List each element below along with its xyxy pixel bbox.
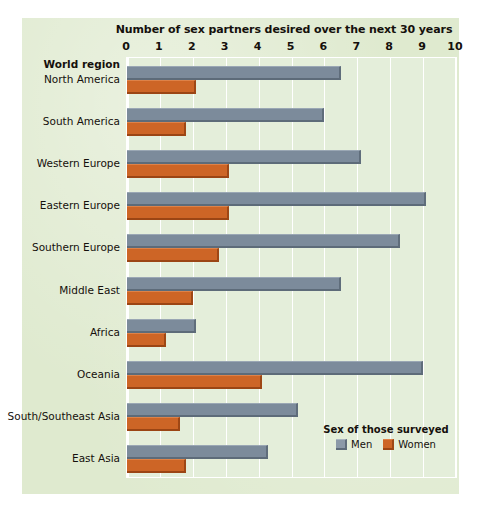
legend-title: Sex of those surveyed <box>318 424 454 435</box>
x-axis-tick-4: 4 <box>254 40 262 53</box>
category-label-western-europe: Western Europe <box>0 157 120 169</box>
category-label-oceania: Oceania <box>0 368 120 380</box>
legend-label-men: Men <box>351 439 372 450</box>
gridline-6 <box>324 57 325 478</box>
category-label-south-southeast-asia: South/Southeast Asia <box>0 410 120 422</box>
chart-title: Number of sex partners desired over the … <box>104 23 464 36</box>
x-axis-tick-8: 8 <box>385 40 393 53</box>
chart-figure: Number of sex partners desired over the … <box>0 0 479 515</box>
x-axis-tick-0: 0 <box>122 40 130 53</box>
x-axis-tick-7: 7 <box>352 40 360 53</box>
x-axis-tick-1: 1 <box>155 40 163 53</box>
x-axis-tick-5: 5 <box>287 40 295 53</box>
bar-men-south-america <box>127 108 324 122</box>
bar-men-eastern-europe <box>127 192 426 206</box>
x-axis-tick-6: 6 <box>320 40 328 53</box>
x-axis-tick-labels: 012345678910 <box>0 40 479 56</box>
x-axis-tick-9: 9 <box>418 40 426 53</box>
bar-women-eastern-europe <box>127 206 229 220</box>
legend-entry-women: Women <box>383 439 436 450</box>
x-axis-tick-3: 3 <box>221 40 229 53</box>
bar-men-north-america <box>127 66 341 80</box>
y-axis-title: World region <box>0 58 120 70</box>
category-label-north-america: North America <box>0 73 120 85</box>
plot-area <box>126 57 456 478</box>
category-label-south-america: South America <box>0 115 120 127</box>
bar-women-south-southeast-asia <box>127 417 180 431</box>
x-axis-tick-10: 10 <box>447 40 462 53</box>
bar-women-western-europe <box>127 164 229 178</box>
x-axis-tick-2: 2 <box>188 40 196 53</box>
gridline-7 <box>357 57 358 478</box>
legend-entries: MenWomen <box>318 439 454 450</box>
bar-women-north-america <box>127 80 196 94</box>
bar-women-southern-europe <box>127 248 219 262</box>
bar-women-africa <box>127 333 166 347</box>
bar-men-south-southeast-asia <box>127 403 298 417</box>
bar-women-east-asia <box>127 459 186 473</box>
category-label-southern-europe: Southern Europe <box>0 241 120 253</box>
legend-swatch-women-icon <box>383 439 394 450</box>
bar-men-africa <box>127 319 196 333</box>
bar-women-south-america <box>127 122 186 136</box>
bar-men-southern-europe <box>127 234 400 248</box>
category-label-africa: Africa <box>0 326 120 338</box>
gridline-9 <box>423 57 424 478</box>
bar-men-east-asia <box>127 445 268 459</box>
category-label-eastern-europe: Eastern Europe <box>0 199 120 211</box>
category-label-middle-east: Middle East <box>0 284 120 296</box>
bar-women-oceania <box>127 375 262 389</box>
bar-men-oceania <box>127 361 423 375</box>
bar-men-western-europe <box>127 150 361 164</box>
chart-legend: Sex of those surveyed MenWomen <box>318 424 454 450</box>
bar-women-middle-east <box>127 291 193 305</box>
bar-men-middle-east <box>127 277 341 291</box>
gridline-8 <box>390 57 391 478</box>
legend-swatch-men-icon <box>336 439 347 450</box>
gridline-10 <box>456 57 457 478</box>
category-label-east-asia: East Asia <box>0 452 120 464</box>
legend-entry-men: Men <box>336 439 372 450</box>
legend-label-women: Women <box>398 439 436 450</box>
